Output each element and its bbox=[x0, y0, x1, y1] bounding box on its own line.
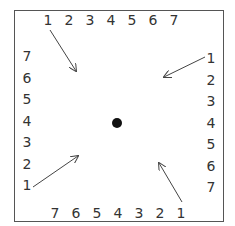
arrow-top-left bbox=[50, 30, 76, 71]
arrow-bottom-right bbox=[159, 163, 182, 202]
arrow-top-right bbox=[164, 57, 205, 77]
center-dot bbox=[112, 118, 122, 128]
arrow-bottom-left bbox=[33, 156, 78, 187]
arrows-and-dot bbox=[0, 0, 235, 226]
